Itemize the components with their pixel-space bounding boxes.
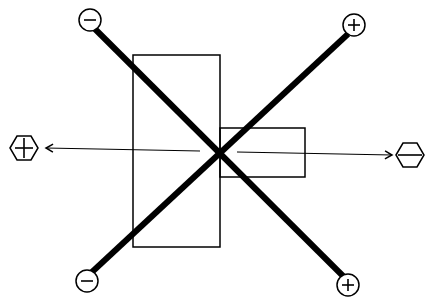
electric-field-diagram bbox=[0, 0, 437, 304]
arrow-left-line bbox=[46, 148, 200, 151]
hexagon-minus-icon bbox=[396, 143, 424, 167]
hexagon-plus-icon bbox=[10, 136, 38, 160]
terminal-top-right-plus-icon bbox=[343, 14, 365, 36]
arrow-right-line bbox=[237, 152, 392, 155]
terminal-bottom-right-plus-icon bbox=[337, 274, 359, 296]
terminal-top-left-minus-icon bbox=[79, 9, 101, 31]
terminal-bottom-left-minus-icon bbox=[76, 270, 98, 292]
